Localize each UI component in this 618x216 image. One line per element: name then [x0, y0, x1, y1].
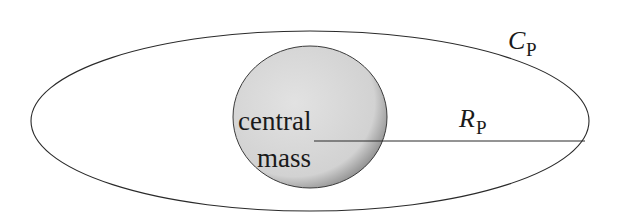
central-mass-label-line2: mass [257, 143, 311, 173]
orbit-diagram: central mass R P C P [0, 0, 618, 216]
radius-label: R P [458, 104, 487, 138]
orbit-label-main: C [508, 26, 526, 55]
orbit-label: C P [508, 26, 537, 60]
radius-label-main: R [458, 104, 475, 133]
radius-label-subscript: P [476, 117, 487, 138]
central-mass-label-line1: central [238, 106, 311, 136]
orbit-label-subscript: P [526, 39, 537, 60]
